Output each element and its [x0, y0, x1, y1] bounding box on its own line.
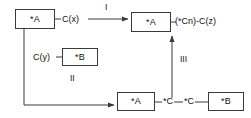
node-box-a-bottom: *A — [117, 92, 155, 111]
label-atom-c-first: *C — [163, 97, 173, 106]
node-box-b-middle: *B — [62, 48, 98, 66]
reaction-scheme-diagram: *A *A *B *A *B C(x) (*Cn)-C(z) C(y) *C *… — [0, 0, 251, 118]
label-atom-c-second: *C — [184, 97, 194, 106]
connector-step-two-arrow — [24, 29, 114, 105]
label-step-two: II — [70, 74, 75, 83]
label-step-one: I — [105, 3, 107, 12]
node-box-b-bottom: *B — [208, 92, 244, 111]
node-box-a-top: *A — [15, 9, 55, 29]
label-product-chain: (*Cn)-C(z) — [175, 17, 216, 26]
label-step-three: III — [180, 55, 187, 64]
label-cy: C(y) — [33, 53, 50, 62]
node-box-a-product: *A — [131, 12, 171, 32]
label-cx: C(x) — [62, 15, 79, 24]
